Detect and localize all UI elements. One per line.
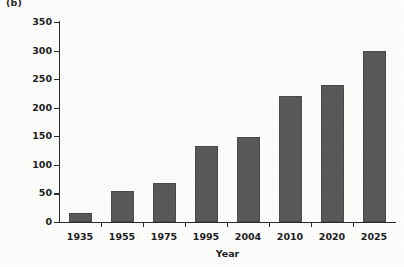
bar [363,51,386,222]
bar-chart-figure: (b) People with diabetes (millions) 0501… [0,0,404,267]
y-tick-mark [54,193,59,194]
x-tick-mark [269,222,270,227]
bar [195,146,218,222]
y-tick-label: 0 [45,216,52,227]
y-tick-label: 250 [32,73,52,84]
panel-label: (b) [6,0,22,8]
y-tick-mark [54,79,59,80]
bar [321,85,344,222]
y-tick-label: 200 [32,102,52,113]
x-tick-mark [311,222,312,227]
bar [69,213,92,222]
y-tick-mark [54,222,59,223]
y-tick-label: 300 [32,45,52,56]
y-tick-label: 350 [32,16,52,27]
y-tick-mark [54,22,59,23]
y-tick-mark [54,108,59,109]
bar [153,183,176,222]
x-tick-mark [353,222,354,227]
y-tick-label: 100 [32,159,52,170]
y-tick-mark [54,51,59,52]
plot-area: 050100150200250300350 [59,22,395,222]
y-tick-mark [54,165,59,166]
x-axis-title: Year [59,248,396,259]
x-tick-mark [185,222,186,227]
x-tick-mark [227,222,228,227]
y-tick-label: 150 [32,130,52,141]
bar [111,191,134,222]
bar [279,96,302,222]
x-tick-label: 2025 [349,231,399,242]
x-tick-mark [101,222,102,227]
x-tick-mark [143,222,144,227]
y-tick-mark [54,136,59,137]
bar [237,137,260,222]
y-tick-label: 50 [39,187,52,198]
